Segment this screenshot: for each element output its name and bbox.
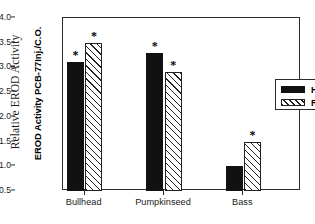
erod-activity-bar-chart: Relative EROD Activity EROD Activity PCB… — [0, 0, 315, 224]
y-axis-tick-label: 3.5 — [0, 37, 11, 47]
bar-bullhead-hr — [67, 62, 84, 191]
y-axis-tick-label: 2.5 — [0, 86, 11, 96]
legend-label-ref: REF — [311, 98, 315, 108]
y-axis-tick-mark — [11, 115, 16, 116]
y-axis-tick-label: 3.0 — [0, 61, 11, 71]
x-axis-category-pumpkinseed: Pumpkinseed — [135, 197, 191, 207]
y-axis-tick-mark — [11, 16, 16, 17]
y-axis-tick-mark — [11, 140, 16, 141]
legend-label-hr: HR — [311, 85, 315, 95]
legend-swatch-hr — [281, 86, 305, 94]
plot-area: ***** HRREF — [62, 17, 300, 190]
x-axis-tick-mark — [242, 190, 243, 195]
y-axis-tick-mark — [11, 41, 16, 42]
bar-pumpkinseed-hr — [146, 53, 163, 191]
x-axis-tick-mark — [163, 190, 164, 195]
bar-pumpkinseed-ref — [165, 72, 182, 191]
chart-legend: HRREF — [275, 79, 315, 110]
y-axis-tick-label: 0.5 — [0, 185, 11, 195]
significance-star-pumpkinseed-ref: * — [170, 59, 176, 71]
y-axis-tick-mark — [11, 165, 16, 166]
bar-bass-ref — [244, 142, 261, 191]
x-axis-category-bullhead: Bullhead — [66, 197, 102, 207]
legend-item-hr: HR — [281, 84, 315, 95]
bar-bullhead-ref — [85, 43, 102, 191]
x-axis-category-bass: Bass — [232, 197, 252, 207]
significance-star-bullhead-ref: * — [91, 30, 97, 42]
legend-item-ref: REF — [281, 97, 315, 108]
bar-bass-hr — [226, 166, 243, 191]
y-axis-tick-label: 4.0 — [0, 12, 11, 22]
y-axis-tick-mark — [11, 91, 16, 92]
significance-star-pumpkinseed-hr: * — [152, 40, 158, 52]
significance-star-bullhead-hr: * — [72, 49, 78, 61]
y-axis-tick-mark — [11, 66, 16, 67]
y-axis-tick-label: 1.0 — [0, 160, 11, 170]
y-axis-tick-mark — [11, 189, 16, 190]
legend-swatch-ref — [281, 99, 305, 107]
x-axis-tick-mark — [84, 190, 85, 195]
significance-star-bass-ref: * — [250, 129, 256, 141]
y-axis-tick-label: 1.5 — [0, 136, 11, 146]
y-axis-tick-label: 2.0 — [0, 111, 11, 121]
